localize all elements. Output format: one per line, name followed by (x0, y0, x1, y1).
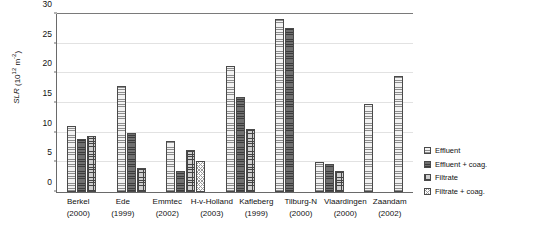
legend-item-label: Effluent + coag. (435, 160, 487, 169)
y-axis-tick-label: 10 (43, 118, 57, 128)
bar (166, 141, 175, 192)
bar-groups (57, 14, 413, 192)
bar (77, 139, 86, 192)
x-axis-category-year: (2002) (368, 208, 412, 220)
y-axis-title-unit: (1012 m-2) (12, 51, 21, 86)
x-axis-category-name: Kafleberg (239, 197, 273, 206)
legend-item[interactable]: Effluent + coag. (424, 160, 487, 169)
bar-group (364, 14, 373, 192)
x-axis-category-year: (2000) (279, 208, 323, 220)
bar-group (67, 14, 96, 192)
legend-item-label: Filtrate (435, 173, 458, 182)
bar-group (117, 14, 146, 192)
y-axis-tick-label: 20 (43, 58, 57, 68)
bar (67, 126, 76, 192)
x-axis-category-name: Zaandam (373, 197, 407, 206)
bar (246, 129, 255, 192)
y-axis-tick-label: 5 (47, 147, 57, 157)
x-axis-category-year: (2000) (56, 208, 100, 220)
y-axis-tick-label: 30 (43, 0, 57, 9)
x-axis-group-label: Tilburg-N(2000) (279, 196, 323, 220)
bar (325, 164, 334, 192)
legend-item[interactable]: Effluent (424, 146, 487, 155)
bar (315, 162, 324, 192)
legend-swatch-icon (424, 161, 431, 168)
bar (196, 161, 205, 192)
legend-swatch-icon (424, 147, 431, 154)
bar (117, 86, 126, 192)
bar (186, 150, 195, 192)
bar-group (315, 14, 344, 192)
bar-group (166, 14, 205, 192)
x-axis-category-year: (1999) (101, 208, 145, 220)
bar (285, 28, 294, 192)
x-axis-group-label: H-v-Holland(2003) (190, 196, 234, 220)
bar-group (394, 14, 403, 192)
legend-swatch-icon (424, 188, 431, 195)
bar (137, 168, 146, 192)
legend-swatch-icon (424, 174, 431, 181)
x-axis-group-label: Ede(1999) (101, 196, 145, 220)
x-axis-category-year: (2002) (145, 208, 189, 220)
y-axis-tick-label: 0 (47, 177, 57, 187)
bar-group (275, 14, 294, 192)
plot-area: 051015202530 (56, 14, 413, 193)
x-axis-category-name: Tilburg-N (284, 197, 317, 206)
bar (394, 76, 403, 192)
x-axis-category-year: (2000) (323, 208, 367, 220)
x-axis-category-name: Emmtec (153, 197, 182, 206)
bar (275, 19, 284, 192)
x-axis-group-label: Emmtec(2002) (145, 196, 189, 220)
y-axis-title-text: SLR (12, 88, 21, 104)
chart-legend: EffluentEffluent + coag.FiltrateFiltrate… (424, 146, 487, 196)
chart-figure: SLR (1012 m-2) 051015202530 Berkel(2000)… (0, 0, 538, 244)
x-axis-group-label: Vlaardingen(2000) (323, 196, 367, 220)
x-axis-category-name: Ede (116, 197, 130, 206)
bar-group (226, 14, 255, 192)
legend-item[interactable]: Filtrate (424, 173, 487, 182)
x-axis-category-year: (1999) (234, 208, 278, 220)
legend-item[interactable]: Filtrate + coag. (424, 187, 487, 196)
y-axis-tick-label: 15 (43, 88, 57, 98)
legend-item-label: Filtrate + coag. (435, 187, 485, 196)
bar (335, 171, 344, 192)
x-axis-group-label: Kafleberg(1999) (234, 196, 278, 220)
x-axis-group-label: Zaandam(2002) (368, 196, 412, 220)
y-axis-tick-label: 25 (43, 29, 57, 39)
bar (364, 104, 373, 192)
x-axis-category-name: Berkel (67, 197, 90, 206)
x-axis-category-year: (2003) (190, 208, 234, 220)
x-axis-category-name: H-v-Holland (191, 197, 233, 206)
bar (176, 171, 185, 192)
bar (236, 97, 245, 192)
bar (226, 66, 235, 192)
x-axis-group-label: Berkel(2000) (56, 196, 100, 220)
legend-item-label: Effluent (435, 146, 460, 155)
y-axis-title: SLR (1012 m-2) (11, 17, 22, 137)
bar (127, 133, 136, 192)
x-axis-category-name: Vlaardingen (324, 197, 367, 206)
bar (87, 136, 96, 192)
x-axis-labels: Berkel(2000)Ede(1999)Emmtec(2002)H-v-Hol… (56, 196, 412, 220)
